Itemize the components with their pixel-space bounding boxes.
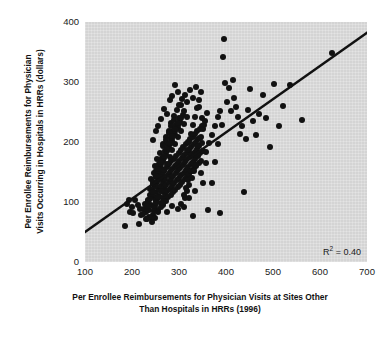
y-axis-title: Per Enrollee Reimbursements for Physicia… xyxy=(23,22,46,262)
trendline-segment xyxy=(85,33,367,232)
y-axis-tick-label: 300 xyxy=(53,76,79,87)
x-axis-tick-label: 100 xyxy=(68,266,102,277)
y-axis-tick-label: 100 xyxy=(53,196,79,207)
y-axis-tick-label: 400 xyxy=(53,16,79,27)
y-axis-title-line-1: Per Enrollee Reimbursements for Physicia… xyxy=(23,22,35,262)
y-axis-title-line-2: Visits Occurring in Hospitals in HRRs (d… xyxy=(34,22,46,262)
x-axis-title: Per Enrollee Reimbursements for Physicia… xyxy=(40,292,360,315)
x-axis-tick-label: 400 xyxy=(209,266,243,277)
x-axis-tick-label: 300 xyxy=(162,266,196,277)
x-axis-title-line-1: Per Enrollee Reimbursements for Physicia… xyxy=(40,292,360,304)
x-axis-title-line-2: Than Hospitals in HRRs (1996) xyxy=(40,304,360,316)
y-axis-tick-label: 200 xyxy=(53,136,79,147)
x-axis-tick-label: 600 xyxy=(303,266,337,277)
r2-suffix: = 0.40 xyxy=(333,247,361,257)
plot-area: R2 = 0.40 xyxy=(85,22,367,262)
x-axis-tick-label: 700 xyxy=(350,266,384,277)
scatter-plot-figure: R2 = 0.40 0100200300400 1002003004005006… xyxy=(0,0,391,337)
x-axis-tick-label: 200 xyxy=(115,266,149,277)
x-axis-tick-label: 500 xyxy=(256,266,290,277)
r-squared-annotation: R2 = 0.40 xyxy=(323,245,361,257)
regression-trendline xyxy=(85,22,367,262)
